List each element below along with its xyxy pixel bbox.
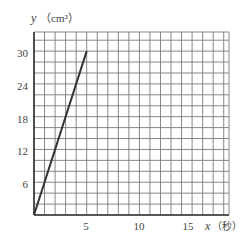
y-axis-var: y [30, 11, 37, 25]
y-tick-label: 30 [17, 47, 29, 59]
x-axis-var: x [204, 219, 211, 233]
x-axis-unit: （秒） [212, 220, 242, 232]
y-axis-unit: （cm²） [40, 12, 79, 24]
y-tick-label: 6 [23, 178, 29, 190]
y-tick-label: 24 [17, 80, 29, 92]
line-chart: y （cm²） 30 24 18 12 6 5 10 15 x （秒） [0, 0, 249, 245]
x-tick-label: 5 [83, 220, 89, 232]
y-tick-label: 12 [17, 145, 28, 157]
x-tick-label: 15 [183, 220, 195, 232]
y-tick-label: 18 [17, 113, 29, 125]
data-line [34, 51, 87, 215]
x-tick-label: 10 [134, 220, 146, 232]
